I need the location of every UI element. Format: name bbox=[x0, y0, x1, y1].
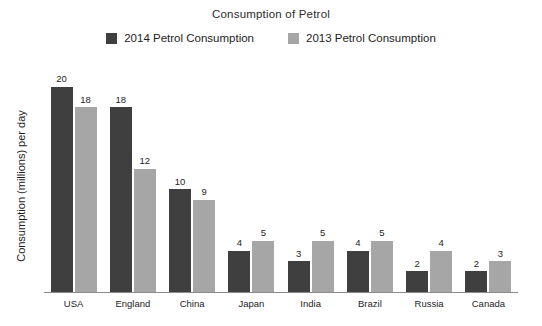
bar-value-label: 5 bbox=[379, 228, 384, 238]
bar-wrapper: 4 bbox=[430, 66, 452, 292]
bar bbox=[406, 271, 428, 292]
bar-wrapper: 5 bbox=[371, 66, 393, 292]
bar-value-label: 5 bbox=[261, 228, 266, 238]
bar-value-label: 18 bbox=[80, 95, 91, 105]
bar-value-label: 18 bbox=[116, 95, 127, 105]
x-axis-tick-label: Russia bbox=[400, 298, 459, 309]
bar-group: 45 bbox=[222, 66, 281, 292]
bar-wrapper: 3 bbox=[489, 66, 511, 292]
y-axis-title: Consumption (millions) per day bbox=[14, 78, 28, 293]
y-axis-title-label: Consumption (millions) per day bbox=[15, 110, 27, 262]
bar-group: 109 bbox=[163, 66, 222, 292]
bar-value-label: 4 bbox=[237, 238, 242, 248]
legend-item-2013: 2013 Petrol Consumption bbox=[288, 32, 436, 44]
bar bbox=[75, 107, 97, 292]
bar-wrapper: 20 bbox=[51, 66, 73, 292]
bar bbox=[228, 251, 250, 292]
bar-value-label: 2 bbox=[414, 259, 419, 269]
bar-value-label: 9 bbox=[201, 187, 206, 197]
bar-wrapper: 3 bbox=[288, 66, 310, 292]
bar-wrapper: 2 bbox=[465, 66, 487, 292]
bar bbox=[430, 251, 452, 292]
chart-legend: 2014 Petrol Consumption 2013 Petrol Cons… bbox=[0, 32, 542, 44]
bar-value-label: 4 bbox=[438, 238, 443, 248]
x-axis-tick-label: India bbox=[281, 298, 340, 309]
legend-label-2014: 2014 Petrol Consumption bbox=[124, 32, 254, 44]
bar-wrapper: 4 bbox=[347, 66, 369, 292]
bar bbox=[489, 261, 511, 292]
bar-wrapper: 5 bbox=[312, 66, 334, 292]
bar-value-label: 3 bbox=[296, 249, 301, 259]
bar bbox=[51, 87, 73, 292]
bar bbox=[371, 241, 393, 292]
bar-chart: Consumption of Petrol 2014 Petrol Consum… bbox=[0, 0, 542, 326]
bar-value-label: 5 bbox=[320, 228, 325, 238]
legend-swatch-2014 bbox=[106, 33, 117, 44]
x-axis-tick-label: England bbox=[103, 298, 162, 309]
bar-wrapper: 5 bbox=[252, 66, 274, 292]
plot-area: 201818121094535452423 bbox=[44, 66, 518, 292]
chart-title: Consumption of Petrol bbox=[0, 8, 542, 20]
bar bbox=[134, 169, 156, 292]
bar-group: 1812 bbox=[103, 66, 162, 292]
bar-value-label: 20 bbox=[56, 74, 67, 84]
bar-wrapper: 2 bbox=[406, 66, 428, 292]
x-axis-tick-label: USA bbox=[44, 298, 103, 309]
x-axis-tick-label: Japan bbox=[222, 298, 281, 309]
bar bbox=[193, 200, 215, 292]
bar-wrapper: 9 bbox=[193, 66, 215, 292]
bar-wrapper: 12 bbox=[134, 66, 156, 292]
legend-swatch-2013 bbox=[288, 33, 299, 44]
bar bbox=[110, 107, 132, 292]
bar-value-label: 4 bbox=[355, 238, 360, 248]
bar-wrapper: 18 bbox=[75, 66, 97, 292]
bar-value-label: 2 bbox=[474, 259, 479, 269]
bar bbox=[169, 189, 191, 292]
bar-value-label: 3 bbox=[498, 249, 503, 259]
legend-label-2013: 2013 Petrol Consumption bbox=[306, 32, 436, 44]
bar-group: 45 bbox=[340, 66, 399, 292]
bar-group: 2018 bbox=[44, 66, 103, 292]
bar-wrapper: 4 bbox=[228, 66, 250, 292]
bar-group: 24 bbox=[400, 66, 459, 292]
bar-group: 23 bbox=[459, 66, 518, 292]
legend-item-2014: 2014 Petrol Consumption bbox=[106, 32, 254, 44]
x-axis-labels: USAEnglandChinaJapanIndiaBrazilRussiaCan… bbox=[44, 298, 518, 314]
bar bbox=[347, 251, 369, 292]
bar-value-label: 10 bbox=[175, 177, 186, 187]
bar-value-label: 12 bbox=[140, 156, 151, 166]
bar bbox=[288, 261, 310, 292]
x-axis-tick-label: China bbox=[163, 298, 222, 309]
bar-wrapper: 18 bbox=[110, 66, 132, 292]
bar bbox=[312, 241, 334, 292]
x-axis-tick-label: Brazil bbox=[340, 298, 399, 309]
bar bbox=[465, 271, 487, 292]
bar bbox=[252, 241, 274, 292]
x-axis-tick-label: Canada bbox=[459, 298, 518, 309]
bar-group: 35 bbox=[281, 66, 340, 292]
bar-wrapper: 10 bbox=[169, 66, 191, 292]
x-axis-line bbox=[44, 292, 518, 293]
